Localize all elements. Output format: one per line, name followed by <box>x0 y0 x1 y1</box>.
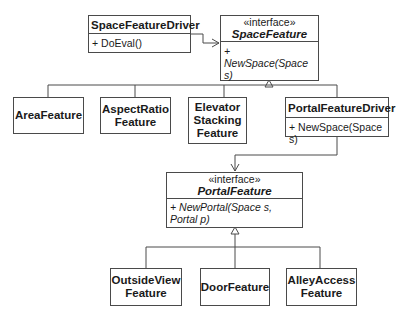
class-door-feature[interactable]: DoorFeature <box>200 268 270 306</box>
class-method: + NewSpace(Space s) <box>286 118 388 148</box>
class-name: SpaceFeatureDriver <box>89 16 190 34</box>
interface-header: «interface» SpaceFeature <box>221 16 318 42</box>
interface-method: + NewPortal(Space s, Portal p) <box>167 199 302 227</box>
stereotype-label: «interface» <box>221 16 318 28</box>
connectors <box>0 0 398 313</box>
class-outside-view-feature[interactable]: OutsideView Feature <box>110 268 182 306</box>
class-alley-access-feature[interactable]: AlleyAccess Feature <box>286 268 357 306</box>
class-elevator-stacking-feature[interactable]: Elevator Stacking Feature <box>188 97 247 144</box>
interface-name: SpaceFeature <box>221 28 318 41</box>
interface-header: «interface» PortalFeature <box>167 173 302 199</box>
class-aspect-ratio-feature[interactable]: AspectRatio Feature <box>100 97 171 134</box>
class-space-feature-driver[interactable]: SpaceFeatureDriver + DoEval() <box>88 15 191 53</box>
class-method: + DoEval() <box>89 34 190 52</box>
class-area-feature[interactable]: AreaFeature <box>13 97 84 134</box>
dependency-arrow-driver-to-spacefeature <box>190 34 219 43</box>
interface-method: + NewSpace(Space s) <box>221 42 318 84</box>
class-portal-feature-driver[interactable]: PortalFeatureDriver + NewSpace(Space s) <box>285 97 389 137</box>
realization-triangle <box>231 227 239 234</box>
interface-name: PortalFeature <box>167 185 302 198</box>
class-name: PortalFeatureDriver <box>286 98 388 118</box>
interface-space-feature[interactable]: «interface» SpaceFeature + NewSpace(Spac… <box>220 15 319 81</box>
interface-portal-feature[interactable]: «interface» PortalFeature + NewPortal(Sp… <box>166 172 303 228</box>
stereotype-label: «interface» <box>167 173 302 185</box>
